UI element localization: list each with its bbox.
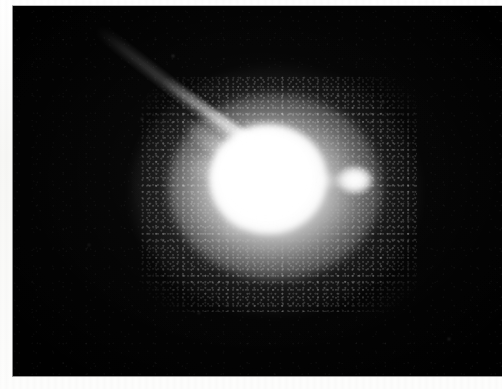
field-star-1: [172, 55, 174, 57]
spike-upper-left: [172, 109, 260, 180]
spike-upper-right: [251, 133, 316, 180]
halo-outer-envelope: [131, 66, 421, 316]
spike-lower-left: [216, 169, 266, 247]
photographic-plate-frame: [13, 6, 502, 376]
companion-bridge: [313, 174, 347, 187]
field-star-7: [88, 244, 90, 246]
sky-background-fog: [13, 6, 502, 376]
jet-bright-inner: [163, 78, 273, 156]
jet-faint-outer: [73, 24, 289, 164]
field-star-5: [198, 312, 200, 314]
scan-page: [0, 0, 502, 389]
spike-right: [253, 163, 330, 200]
top-artifact-4: [392, 1, 442, 3]
halo-inner-envelope: [168, 94, 382, 280]
celestial-object-group: [13, 6, 502, 376]
field-star-2: [141, 118, 143, 120]
spike-up: [246, 120, 269, 174]
field-star-6: [448, 338, 450, 340]
halo-grain-texture: [141, 76, 417, 312]
emulsion-grain-layer: [13, 6, 502, 376]
top-artifact-2: [196, 0, 240, 3]
saturated-core: [209, 124, 327, 234]
field-star-8: [410, 218, 412, 220]
field-star-3: [382, 101, 384, 103]
top-artifact-1: [78, 1, 140, 4]
top-artifact-3: [300, 2, 334, 4]
plate-edge-bottom: [12, 376, 502, 377]
spike-left: [180, 154, 256, 184]
companion-knot: [337, 166, 373, 194]
spike-lower-right: [244, 167, 304, 248]
field-star-4: [324, 288, 326, 290]
